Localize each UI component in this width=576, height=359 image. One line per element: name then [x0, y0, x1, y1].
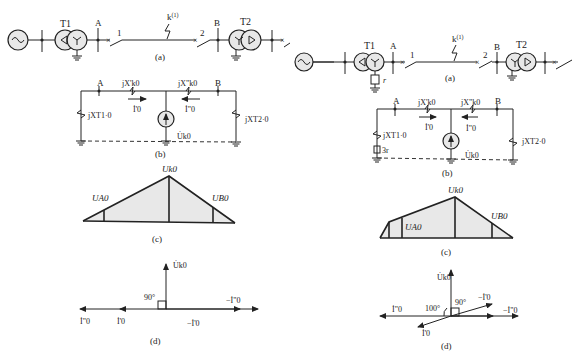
svg-text:×: × [400, 58, 405, 67]
svg-text:3r: 3r [382, 146, 389, 155]
svg-text:(c): (c) [441, 247, 451, 257]
svg-text:jXT1·0: jXT1·0 [382, 131, 407, 140]
svg-text:B: B [214, 18, 220, 28]
svg-text:İ"0: İ"0 [80, 317, 90, 326]
svg-text:T1: T1 [60, 18, 71, 29]
svg-text:−İ'0: −İ'0 [478, 293, 491, 302]
breaker-2 [197, 40, 210, 47]
svg-text:(d): (d) [441, 341, 452, 351]
svg-text:A: A [97, 78, 104, 88]
svg-text:k(1): k(1) [167, 12, 179, 22]
svg-text:−İ'0: −İ'0 [187, 319, 200, 328]
svg-text:İ'0: İ'0 [425, 123, 433, 132]
breaker-1 [110, 40, 122, 46]
resistor-r-icon [371, 75, 379, 84]
svg-text:A: A [95, 18, 102, 28]
breaker-2 [479, 61, 492, 68]
svg-text:İ'0: İ'0 [133, 105, 141, 114]
svg-text:UA0: UA0 [92, 193, 109, 203]
fault-icon [452, 45, 457, 61]
svg-text:İ'0: İ'0 [117, 317, 125, 326]
svg-text:U̇k0: U̇k0 [437, 272, 451, 282]
right-phasor-diagram: U̇k0 90° 100° İ"0 İ'0 −İ'0 −İ"0 (d) [380, 270, 518, 351]
svg-text:(c): (c) [152, 234, 162, 244]
svg-text:×: × [106, 36, 111, 45]
left-phasor-diagram: U̇k0 90° İ"0 İ'0 −İ'0 −İ"0 (d) [80, 260, 258, 346]
svg-text:×: × [475, 58, 480, 67]
svg-text:İ"0: İ"0 [392, 305, 402, 314]
svg-text:B: B [495, 96, 501, 106]
svg-text:A: A [393, 96, 400, 106]
svg-text:×: × [280, 36, 285, 45]
svg-text:1: 1 [117, 28, 122, 38]
svg-text:Uk0: Uk0 [162, 164, 177, 174]
svg-text:UB0: UB0 [212, 193, 229, 203]
zero-sequence-diagram: T1 A × 1 k(1) (a) × 2 B T2 × A B jX'k0 [0, 0, 576, 359]
svg-text:T2: T2 [240, 16, 251, 27]
svg-text:jXT1·0: jXT1·0 [87, 111, 112, 120]
svg-text:UA0: UA0 [405, 222, 422, 232]
svg-text:(a): (a) [155, 52, 165, 62]
svg-text:İ"0: İ"0 [466, 124, 476, 133]
svg-text:T2: T2 [516, 39, 527, 50]
svg-text:2: 2 [200, 28, 205, 38]
svg-text:(b): (b) [442, 168, 453, 178]
left-voltage-distribution: Uk0 UA0 UB0 (c) [83, 164, 235, 244]
right-zero-sequence-network: A B jX'k0 jX"k0 İ'0 İ"0 jXT1·0 3r U̇k0 j… [372, 96, 546, 178]
svg-text:90°: 90° [455, 298, 466, 307]
svg-text:−İ"0: −İ"0 [226, 296, 240, 305]
svg-text:100°: 100° [425, 304, 440, 313]
svg-text:(a): (a) [445, 73, 455, 83]
svg-text:U̇k0: U̇k0 [465, 150, 479, 160]
svg-text:×: × [193, 36, 198, 45]
svg-text:−İ"0: −İ"0 [503, 306, 517, 315]
svg-text:×: × [552, 58, 557, 67]
svg-text:jXT2·0: jXT2·0 [244, 115, 269, 124]
svg-text:U̇k0: U̇k0 [173, 260, 187, 270]
svg-text:k(1): k(1) [452, 34, 464, 44]
svg-text:1: 1 [410, 50, 415, 60]
left-zero-sequence-network: A B jX'k0 jX"k0 İ'0 İ"0 jXT1·0 U̇k0 jXT2… [76, 78, 269, 159]
svg-text:90°: 90° [144, 293, 155, 302]
svg-text:r: r [383, 76, 387, 85]
svg-text:(d): (d) [150, 336, 161, 346]
fault-icon [165, 24, 170, 39]
svg-text:(b): (b) [155, 149, 166, 159]
left-single-line-diagram: T1 A × 1 k(1) (a) × 2 B T2 × [8, 12, 290, 62]
svg-text:B: B [494, 42, 500, 52]
svg-text:T1: T1 [364, 40, 375, 51]
svg-text:jX"k0: jX"k0 [177, 79, 197, 88]
svg-text:U̇k0: U̇k0 [177, 131, 191, 141]
svg-text:jX'k0: jX'k0 [417, 98, 435, 107]
svg-text:jXT2·0: jXT2·0 [521, 137, 546, 146]
svg-text:UB0: UB0 [491, 211, 508, 221]
svg-text:İ"0: İ"0 [185, 105, 195, 114]
svg-text:A: A [390, 41, 397, 51]
svg-text:İ'0: İ'0 [422, 329, 430, 338]
right-voltage-distribution: Uk0 UA0 UB0 (c) [380, 185, 513, 257]
svg-text:2: 2 [483, 50, 488, 60]
svg-text:jX'k0: jX'k0 [121, 79, 139, 88]
svg-text:Uk0: Uk0 [448, 185, 463, 195]
right-single-line-diagram: r T1 A × 1 k(1) (a) × 2 B T2 × [295, 34, 572, 92]
svg-text:jX"k0: jX"k0 [460, 98, 480, 107]
breaker-1 [405, 62, 416, 68]
